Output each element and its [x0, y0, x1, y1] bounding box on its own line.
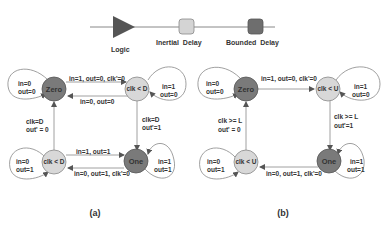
bounded-delay-icon — [248, 19, 263, 34]
edge-bl-one-label: in=1, out=1 — [76, 148, 111, 156]
loop-bl-in: in=0 — [16, 158, 30, 165]
loop-one-in-b: in=1 — [350, 158, 364, 165]
caption-a: (a) — [90, 208, 101, 218]
loop-one-out-b: out=1 — [347, 166, 365, 173]
edge-bl-zero-label-b-2: out' = 0 — [218, 126, 241, 133]
legend-inertial-label: Inertial Delay — [156, 39, 202, 47]
edge-bl-zero-label-1: clk=D — [26, 118, 44, 125]
legend: Logic Inertial Delay Bounded Delay — [90, 16, 279, 54]
loop-one-out: out=1 — [154, 166, 172, 173]
legend-logic-label: Logic — [111, 46, 130, 54]
loop-tr-out: out=0 — [160, 91, 178, 98]
edge-bl-zero-label-b-1: clk >= L — [218, 117, 242, 124]
edge-tr-one-label-b-1: clk >= L — [334, 113, 358, 120]
loop-zero-in-b: in=0 — [206, 80, 220, 87]
loop-tr-in: in=1 — [162, 83, 176, 90]
node-bl-a-label: clk < D — [43, 158, 64, 165]
edge-tr-one-label-1: clk=D — [142, 116, 160, 123]
loop-zero-in: in=0 — [18, 80, 32, 87]
edge-bl-zero-label-2: out' = 0 — [26, 126, 49, 133]
edge-tr-one-label-2: out'=1 — [142, 124, 161, 131]
node-tr-b-label: clk < U — [317, 85, 338, 92]
loop-tr-out-b: out=0 — [352, 91, 370, 98]
legend-bounded-label: Bounded Delay — [226, 39, 279, 47]
state-diagram-figure: Logic Inertial Delay Bounded Delay Zero … — [0, 0, 385, 233]
loop-bl-out-b: out=1 — [207, 166, 225, 173]
edge-one-bl-label-b: in=0, out=1, clk'=0 — [266, 170, 322, 178]
node-one-b-label: One — [322, 157, 337, 166]
edge-zero-tr-label-b: in=1, out=0, clk'=0 — [261, 75, 317, 83]
loop-one-in: in=1 — [158, 158, 172, 165]
node-one-a-label: One — [129, 157, 144, 166]
diagram-a: Zero clk < D clk < D One in=0 out=0 in=1… — [8, 67, 186, 218]
diagram-b: Zero clk < U clk < U One in=0 out=0 in=1… — [198, 67, 380, 218]
edge-tr-one-label-b-2: out'=1 — [334, 122, 353, 129]
loop-bl-in-b: in=0 — [207, 158, 221, 165]
loop-zero-out-b: out=0 — [206, 88, 224, 95]
edge-zero-tr-label: in=1, out=0, clk'=0 — [69, 75, 125, 83]
node-bl-b-label: clk < U — [235, 158, 256, 165]
loop-tr-in-b: in=1 — [354, 83, 368, 90]
edge-tr-zero-label: in=0, out=0 — [80, 98, 115, 106]
inertial-delay-icon — [179, 19, 194, 34]
node-tr-a-label: clk < D — [126, 85, 147, 92]
loop-zero-out: out=0 — [18, 88, 36, 95]
loop-bl-out: out=1 — [16, 166, 34, 173]
node-zero-b-label: Zero — [238, 85, 255, 94]
edge-one-bl-label: in=0, out=1, clk'=0 — [74, 170, 130, 178]
caption-b: (b) — [277, 208, 289, 218]
node-zero-a-label: Zero — [46, 85, 63, 94]
logic-triangle-icon — [113, 16, 135, 38]
